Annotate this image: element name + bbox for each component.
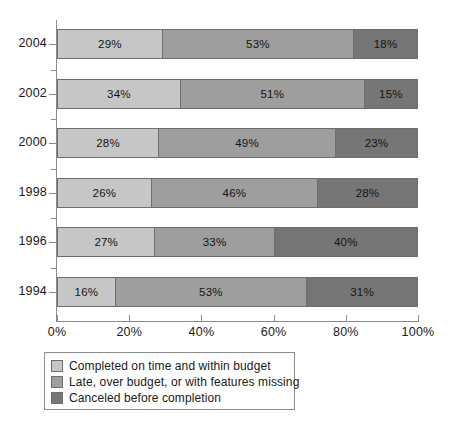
x-axis-tick <box>418 315 419 322</box>
bar-segment-value-label: 23% <box>365 137 389 149</box>
bar-row: 29%53%18% <box>57 29 418 59</box>
y-axis-tick <box>49 143 57 144</box>
bar-segment: 46% <box>151 178 317 208</box>
bar-segment-value-label: 16% <box>75 286 99 298</box>
bar-segment: 51% <box>180 79 364 109</box>
bar-segment-value-label: 26% <box>93 187 117 199</box>
bar-segment: 27% <box>57 227 154 257</box>
bar-segment: 49% <box>158 128 335 158</box>
bar-row: 34%51%15% <box>57 79 418 109</box>
y-axis-tick <box>49 94 57 95</box>
bar-segment: 29% <box>57 29 162 59</box>
bar-segment-value-label: 33% <box>203 236 227 248</box>
bar-segment: 15% <box>364 79 418 109</box>
bar-segment: 33% <box>154 227 273 257</box>
stacked-bar-chart: 200420022000199819961994 29%53%18%34%51%… <box>0 0 450 429</box>
bar-row: 28%49%23% <box>57 128 418 158</box>
x-axis-tick-label: 100% <box>388 325 448 339</box>
bar-segment-value-label: 34% <box>107 88 131 100</box>
bar-row: 27%33%40% <box>57 227 418 257</box>
bar-segment: 53% <box>162 29 353 59</box>
x-axis-tick-label: 80% <box>316 325 376 339</box>
bar-segment-value-label: 46% <box>223 187 247 199</box>
y-axis-tick-label: 2000 <box>0 135 47 149</box>
y-axis-tick <box>49 292 57 293</box>
legend-item-label: Late, over budget, or with features miss… <box>69 375 299 389</box>
y-axis-tick <box>49 242 57 243</box>
bar-row: 26%46%28% <box>57 178 418 208</box>
bar-segment-value-label: 29% <box>98 38 122 50</box>
y-axis-tick-label: 1996 <box>0 234 47 248</box>
bar-segment-value-label: 27% <box>94 236 118 248</box>
y-axis-tick <box>49 193 57 194</box>
bar-segment: 26% <box>57 178 151 208</box>
legend-item-label: Completed on time and within budget <box>69 359 271 373</box>
x-axis-line <box>56 321 419 322</box>
bar-segment: 28% <box>317 178 418 208</box>
y-axis-tick-label: 2002 <box>0 86 47 100</box>
bar-segment: 34% <box>57 79 180 109</box>
legend-item[interactable]: Late, over budget, or with features miss… <box>51 374 294 390</box>
legend-item[interactable]: Canceled before completion <box>51 390 294 406</box>
bar-segment-value-label: 18% <box>374 38 398 50</box>
legend-item[interactable]: Completed on time and within budget <box>51 358 294 374</box>
bar-segment-value-label: 15% <box>379 88 403 100</box>
bar-segment: 40% <box>274 227 418 257</box>
bar-segment-value-label: 53% <box>199 286 223 298</box>
legend-color-swatch-icon <box>51 376 63 388</box>
legend-item-label: Canceled before completion <box>69 391 221 405</box>
y-axis-tick-label: 1998 <box>0 185 47 199</box>
bar-segment-value-label: 49% <box>235 137 259 149</box>
bar-segment-value-label: 31% <box>350 286 374 298</box>
bar-segment-value-label: 53% <box>246 38 270 50</box>
y-axis-tick-label: 1994 <box>0 284 47 298</box>
bar-segment: 18% <box>353 29 418 59</box>
x-axis-tick-label: 40% <box>171 325 231 339</box>
legend-color-swatch-icon <box>51 360 63 372</box>
y-axis-tick-label: 2004 <box>0 36 47 50</box>
bar-segment-value-label: 51% <box>260 88 284 100</box>
bar-segment: 16% <box>57 277 115 307</box>
legend-color-swatch-icon <box>51 392 63 404</box>
bar-segment: 23% <box>335 128 418 158</box>
y-axis-tick <box>49 44 57 45</box>
chart-legend: Completed on time and within budgetLate,… <box>44 352 295 410</box>
bar-segment-value-label: 28% <box>96 137 120 149</box>
bar-segment: 53% <box>115 277 306 307</box>
x-axis-tick-label: 60% <box>244 325 304 339</box>
x-axis-tick-label: 0% <box>27 325 87 339</box>
bar-segment: 31% <box>306 277 418 307</box>
bar-segment-value-label: 40% <box>334 236 358 248</box>
plot-area: 29%53%18%34%51%15%28%49%23%26%46%28%27%3… <box>57 22 418 320</box>
bar-row: 16%53%31% <box>57 277 418 307</box>
x-axis-tick-label: 20% <box>99 325 159 339</box>
bar-segment-value-label: 28% <box>356 187 380 199</box>
bar-segment: 28% <box>57 128 158 158</box>
